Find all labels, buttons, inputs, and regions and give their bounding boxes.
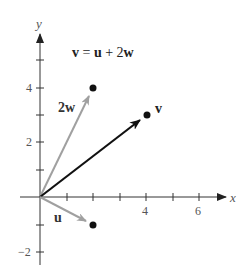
vector-2w: 2w (40, 85, 97, 198)
y-tick-label-4: 4 (26, 81, 32, 95)
vector-diagram: x y 4 6 4 2 −2 v = u + 2w 2w v u (0, 0, 246, 274)
vector-u: u (40, 197, 97, 229)
point-2w (90, 85, 97, 92)
equation-label: v = u + 2w (72, 45, 135, 60)
vector-v: v (40, 101, 162, 197)
y-tick-label-neg2: −2 (18, 245, 31, 259)
y-tick-label-2: 2 (26, 135, 32, 149)
equation-u: u (94, 45, 102, 60)
vector-2w-label: 2w (58, 100, 76, 115)
equation-v: v (72, 45, 79, 60)
x-axis-label: x (229, 190, 236, 205)
y-axis (36, 34, 44, 265)
x-tick-label-6: 6 (195, 204, 201, 218)
point-u (90, 222, 97, 229)
vector-u-label: u (54, 210, 62, 225)
equation-equals: = (79, 45, 94, 60)
point-v (144, 112, 151, 119)
x-tick-label-4: 4 (142, 204, 148, 218)
x-axis (20, 193, 226, 201)
y-axis-label: y (34, 16, 42, 31)
equation-plus-two: + 2 (102, 45, 124, 60)
equation-w: w (124, 45, 135, 60)
vector-v-label: v (155, 101, 162, 116)
